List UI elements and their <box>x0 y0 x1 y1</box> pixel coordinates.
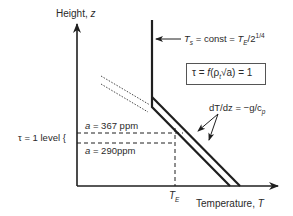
a-367-label: a = 367 ppm <box>85 121 138 131</box>
tau-arg-open: (ρ <box>210 67 219 78</box>
tau-arg-close: ) = 1 <box>232 67 252 78</box>
a-290-label: a = 290ppm <box>85 146 135 156</box>
x-axis-label-text: Temperature, <box>196 198 258 209</box>
y-axis-label-text: Height, <box>56 8 90 19</box>
ts-tail: /2 <box>248 33 256 44</box>
te-tick-sub: E <box>175 196 179 203</box>
tau-level-label: τ = 1 level { <box>18 133 66 143</box>
a-290-value: = 290ppm <box>90 145 135 156</box>
lapse-rate-arrows <box>198 114 218 140</box>
dotted-extension-lines <box>101 76 150 112</box>
te-tick-label: TE <box>169 191 179 201</box>
tau-level-dashed-lines <box>77 133 183 143</box>
tau-sqrt: √a <box>221 67 232 78</box>
lapse-rate-sub: p <box>262 108 266 115</box>
tau-lhs: τ = <box>192 67 207 78</box>
y-axis-label: Height, z <box>56 9 95 19</box>
surface-temp-annotation: Ts = const = TE/21/4 <box>184 34 265 44</box>
ts-sup: 1/4 <box>256 32 265 39</box>
y-axis-variable: z <box>90 8 95 19</box>
tau-formula: τ = f(ρt√a) = 1 <box>192 68 252 78</box>
a-367-value: = 367 ppm <box>90 120 138 131</box>
lapse-rate-text: dT/dz = −g/c <box>209 102 262 113</box>
x-axis-label: Temperature, T <box>196 199 264 209</box>
ts-mid: = const = <box>193 33 237 44</box>
x-axis-variable: T <box>258 198 264 209</box>
lapse-rate-label: dT/dz = −g/cp <box>209 103 265 113</box>
